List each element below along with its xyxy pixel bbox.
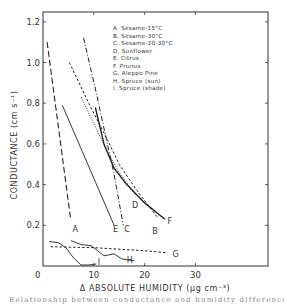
legend-item: G. Aleppo Pine	[113, 70, 158, 77]
x-tick-label: 30	[190, 270, 201, 280]
curve-f	[95, 107, 165, 219]
origin-label: 0	[35, 270, 40, 280]
legend-item: H. Spruce (sun)	[113, 78, 161, 85]
y-tick-label: 1.0	[26, 58, 40, 68]
curve-label-h: H	[127, 256, 133, 265]
curve-label-i: I	[98, 258, 100, 267]
curve-labels: AECDBFGHI	[72, 201, 178, 267]
y-tick-label: 1.2	[26, 17, 40, 27]
x-axis-title: Δ ABSOLUTE HUMIDITY (μg cm⁻³)	[80, 284, 231, 293]
x-tick-label: 10	[88, 270, 99, 280]
curve-label-e: E	[113, 225, 118, 234]
legend-item: D. Sunflower	[113, 48, 153, 54]
curve-h	[71, 241, 134, 261]
y-tick-label: 0.8	[26, 98, 40, 108]
curve-label-d: D	[132, 201, 138, 210]
y-tick-label: 0.6	[26, 139, 40, 149]
conductance-chart: 102030 0.20.40.60.81.01.2 AECDBFGHI A. S…	[0, 0, 284, 305]
curve-e	[62, 105, 114, 225]
y-tick-label: 0.2	[26, 220, 40, 230]
curve-label-g: G	[173, 250, 179, 259]
legend-item: F. Prunus	[113, 63, 141, 69]
x-tick-label: 20	[139, 270, 150, 280]
curve-a	[47, 42, 70, 217]
curve-label-f: F	[167, 217, 172, 226]
y-tick-label: 0.4	[26, 180, 40, 190]
legend-item: C. Sesame-20-30°C	[113, 40, 173, 46]
legend-item: A. Sesame-15°C	[113, 25, 163, 31]
curve-d	[81, 97, 137, 197]
curve-label-a: A	[72, 225, 78, 234]
y-axis-title: CONDUCTANCE (cm s⁻¹)	[10, 91, 19, 200]
curve-label-c: C	[124, 225, 130, 234]
curve-g	[51, 247, 168, 253]
legend: A. Sesame-15°CB. Sesame-30°CC. Sesame-20…	[113, 25, 173, 92]
curve-label-b: B	[152, 227, 158, 236]
legend-item: E. Citrus	[113, 55, 139, 61]
figure-caption: Relationship between conductance and hum…	[9, 296, 284, 304]
legend-item: B. Sesame-30°C	[113, 33, 163, 39]
legend-item: I. Spruce (shade)	[113, 85, 166, 92]
